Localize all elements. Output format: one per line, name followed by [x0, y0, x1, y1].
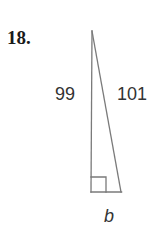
figure-page: 18. 99 101 b	[0, 0, 166, 238]
side-label-hypotenuse: 101	[117, 84, 147, 104]
vertical-leg-line	[91, 31, 92, 192]
side-label-vertical-leg: 99	[55, 84, 75, 104]
triangle-outline	[91, 31, 122, 192]
right-angle-marker-icon	[91, 177, 106, 192]
right-triangle-figure	[0, 0, 166, 238]
hypotenuse-line	[92, 31, 121, 192]
side-label-base: b	[104, 206, 114, 226]
